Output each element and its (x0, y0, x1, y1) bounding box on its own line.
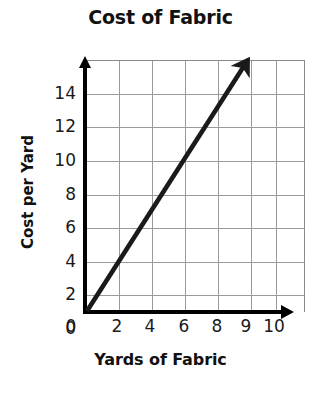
x-axis-title: Yards of Fabric (0, 350, 321, 369)
y-axis-title: Cost per Yard (19, 112, 37, 272)
y-tick-label: 12 (54, 118, 76, 135)
x-tick-label: 9 (234, 318, 258, 335)
gridline-horizontal (86, 262, 305, 263)
y-tick-label: 14 (54, 85, 76, 102)
x-tick-label: 2 (105, 318, 129, 335)
gridline-horizontal (86, 295, 305, 296)
gridline-vertical (119, 60, 120, 312)
x-tick-label: 4 (138, 318, 162, 335)
gridline-vertical (276, 60, 277, 312)
chart-figure: Cost of Fabric 14 12 10 (0, 0, 321, 400)
gridline-horizontal (86, 228, 305, 229)
x-tick-label: 10 (262, 318, 286, 335)
y-tick-label: 10 (54, 152, 76, 169)
y-axis-arrow-icon (79, 56, 91, 68)
y-tick-label: 6 (65, 219, 76, 236)
y-tick-label: 8 (65, 186, 76, 203)
gridline-vertical (251, 60, 252, 312)
y-tick-label: 4 (65, 253, 76, 270)
gridline-horizontal (86, 94, 305, 95)
plot-area (86, 60, 305, 312)
gridline-vertical (304, 60, 305, 312)
gridline-vertical (185, 60, 186, 312)
gridline-horizontal (86, 127, 305, 128)
y-axis (83, 66, 87, 314)
gridline-horizontal (86, 60, 305, 61)
x-axis (83, 310, 283, 314)
y-tick-label: 2 (65, 286, 76, 303)
x-tick-label: 6 (172, 318, 196, 335)
x-tick-label: 8 (205, 318, 229, 335)
gridline-vertical (218, 60, 219, 312)
gridline-vertical (152, 60, 153, 312)
gridline-horizontal (86, 195, 305, 196)
x-tick-label: 0 (59, 318, 83, 335)
gridline-horizontal (86, 161, 305, 162)
